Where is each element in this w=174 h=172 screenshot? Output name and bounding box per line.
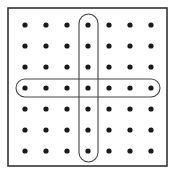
grid-dot bbox=[127, 43, 132, 48]
grid-dot bbox=[127, 22, 132, 27]
grid-dot bbox=[85, 43, 90, 48]
grid-dot bbox=[106, 106, 111, 111]
grid-dot bbox=[148, 43, 153, 48]
grid-dot bbox=[22, 148, 27, 153]
grid-dot bbox=[64, 148, 69, 153]
grid-dot bbox=[85, 127, 90, 132]
grid-dot bbox=[106, 43, 111, 48]
dot-grid-diagram bbox=[0, 0, 174, 172]
grid-dot bbox=[64, 64, 69, 69]
grid-dot bbox=[43, 43, 48, 48]
grid-dot bbox=[22, 85, 27, 90]
grid-dot bbox=[85, 22, 90, 27]
grid-dot bbox=[127, 127, 132, 132]
grid-dot bbox=[148, 22, 153, 27]
grid-dot bbox=[148, 148, 153, 153]
grid-dot bbox=[22, 22, 27, 27]
grid-dot bbox=[127, 106, 132, 111]
grid-dot bbox=[22, 127, 27, 132]
grid-dot bbox=[64, 43, 69, 48]
grid-dot bbox=[148, 64, 153, 69]
grid-dot bbox=[43, 127, 48, 132]
grid-dot bbox=[64, 127, 69, 132]
grid-dot bbox=[106, 22, 111, 27]
grid-dot bbox=[64, 106, 69, 111]
grid-dot bbox=[85, 64, 90, 69]
grid-dot bbox=[22, 106, 27, 111]
grid-dot bbox=[127, 64, 132, 69]
grid-dot bbox=[148, 85, 153, 90]
grid-dot bbox=[106, 85, 111, 90]
diagram-canvas bbox=[0, 0, 174, 172]
grid-dot bbox=[106, 127, 111, 132]
grid-dot bbox=[43, 85, 48, 90]
grid-dot bbox=[22, 43, 27, 48]
grid-dot bbox=[85, 85, 90, 90]
grid-dot bbox=[85, 106, 90, 111]
grid-dot bbox=[148, 127, 153, 132]
grid-dot bbox=[43, 106, 48, 111]
grid-dot bbox=[22, 64, 27, 69]
grid-dot bbox=[148, 106, 153, 111]
grid-dot bbox=[106, 64, 111, 69]
grid-dot bbox=[64, 22, 69, 27]
grid-dot bbox=[64, 85, 69, 90]
grid-dot bbox=[127, 85, 132, 90]
grid-dot bbox=[85, 148, 90, 153]
grid-dot bbox=[127, 148, 132, 153]
grid-dot bbox=[43, 64, 48, 69]
grid-dot bbox=[106, 148, 111, 153]
grid-dot bbox=[43, 22, 48, 27]
grid-dot bbox=[43, 148, 48, 153]
